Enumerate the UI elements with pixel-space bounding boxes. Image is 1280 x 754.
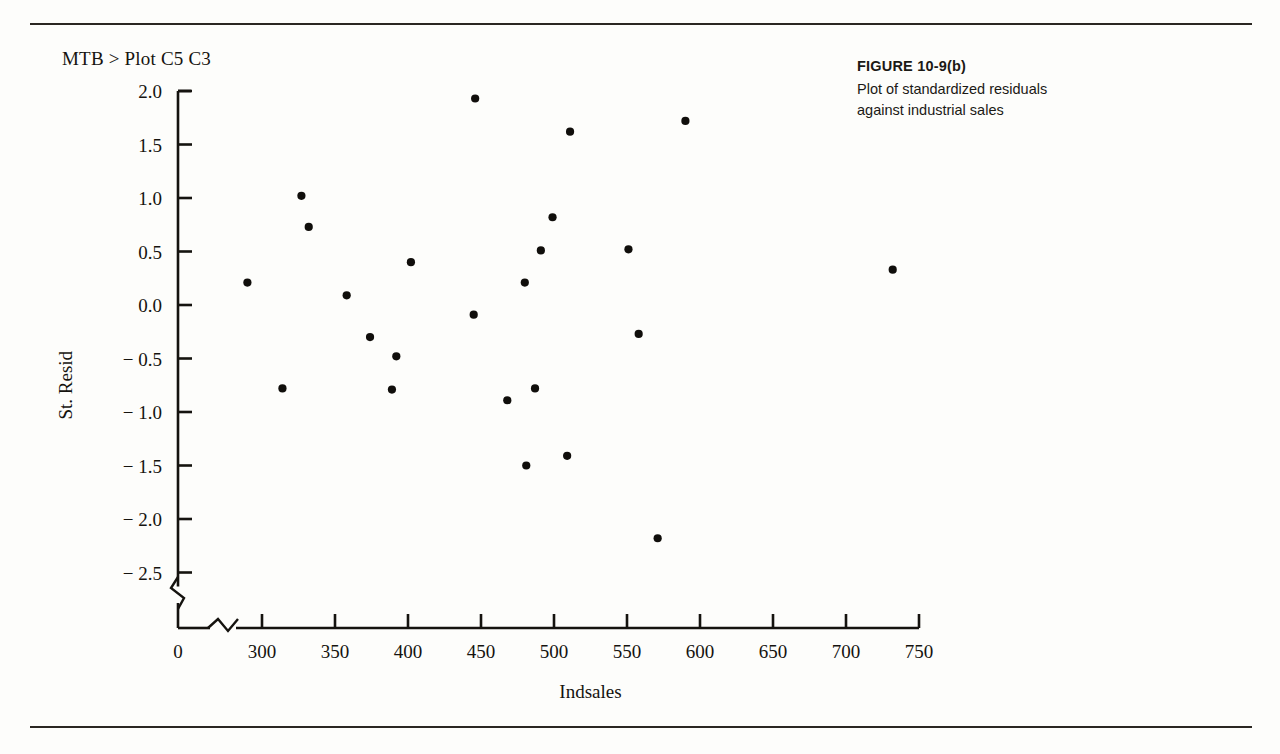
x-tick-label-9: 750 bbox=[905, 641, 934, 662]
data-point bbox=[278, 384, 286, 392]
data-point bbox=[531, 384, 539, 392]
data-point bbox=[297, 192, 305, 200]
y-tick-label-3: 0.5 bbox=[138, 242, 162, 263]
data-point bbox=[681, 117, 689, 125]
data-point bbox=[654, 534, 662, 542]
bottom-divider-rule bbox=[30, 726, 1252, 728]
x-origin-label: 0 bbox=[173, 641, 183, 662]
data-point bbox=[392, 352, 400, 360]
y-tick-label-5: − 0.5 bbox=[123, 349, 162, 370]
data-point bbox=[388, 385, 396, 393]
y-tick-label-9: − 2.5 bbox=[123, 563, 162, 584]
x-axis-break-mark bbox=[208, 619, 238, 631]
y-tick-label-7: − 1.5 bbox=[123, 456, 162, 477]
data-point bbox=[366, 333, 374, 341]
data-point bbox=[243, 278, 251, 286]
y-tick-label-0: 2.0 bbox=[138, 81, 162, 102]
data-point bbox=[566, 128, 574, 136]
data-point bbox=[503, 396, 511, 404]
scatter-plot-canvas: 2.01.51.00.50.0− 0.5− 1.0− 1.5− 2.0− 2.5… bbox=[0, 0, 1000, 700]
x-tick-label-8: 700 bbox=[832, 641, 861, 662]
x-tick-label-6: 600 bbox=[686, 641, 715, 662]
y-axis-title: St. Resid bbox=[55, 350, 76, 419]
data-point bbox=[521, 278, 529, 286]
y-tick-label-6: − 1.0 bbox=[123, 402, 162, 423]
data-point bbox=[471, 94, 479, 102]
scatter-plot: 2.01.51.00.50.0− 0.5− 1.0− 1.5− 2.0− 2.5… bbox=[0, 0, 1000, 700]
y-tick-label-8: − 2.0 bbox=[123, 509, 162, 530]
data-point bbox=[624, 245, 632, 253]
data-point bbox=[548, 213, 556, 221]
y-tick-label-4: 0.0 bbox=[138, 295, 162, 316]
x-tick-label-0: 300 bbox=[248, 641, 277, 662]
x-tick-label-3: 450 bbox=[467, 641, 496, 662]
x-tick-label-4: 500 bbox=[540, 641, 569, 662]
data-point bbox=[522, 461, 530, 469]
data-point bbox=[563, 452, 571, 460]
data-point bbox=[537, 246, 545, 254]
data-point bbox=[407, 258, 415, 266]
data-point bbox=[635, 330, 643, 338]
x-tick-label-2: 400 bbox=[394, 641, 423, 662]
x-tick-label-1: 350 bbox=[321, 641, 350, 662]
data-point bbox=[889, 266, 897, 274]
x-tick-label-5: 550 bbox=[613, 641, 642, 662]
data-point bbox=[470, 311, 478, 319]
data-point bbox=[343, 291, 351, 299]
y-tick-label-2: 1.0 bbox=[138, 188, 162, 209]
x-axis-title: Indsales bbox=[559, 681, 621, 700]
y-tick-label-1: 1.5 bbox=[138, 135, 162, 156]
data-point bbox=[305, 223, 313, 231]
x-tick-label-7: 650 bbox=[759, 641, 788, 662]
